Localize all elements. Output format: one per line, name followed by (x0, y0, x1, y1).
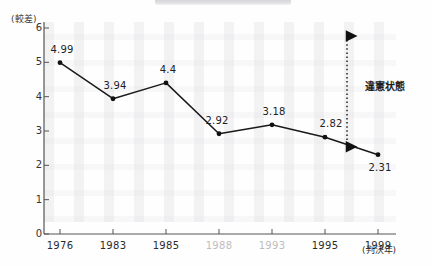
chart-vector-layer (0, 0, 432, 266)
data-series-line (58, 60, 381, 157)
chart-canvas: (較差) 0123456 197619831985198819931995199… (0, 0, 432, 266)
axis-lines (44, 22, 396, 234)
